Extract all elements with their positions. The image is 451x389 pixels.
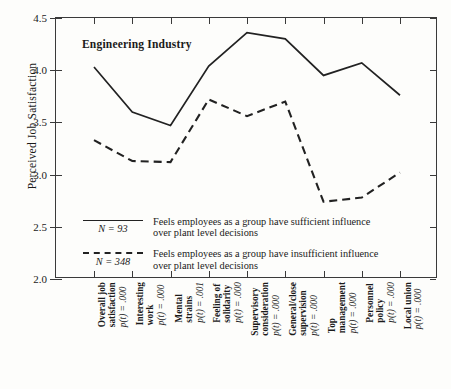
x-axis-label-name: Overall job — [97, 282, 107, 327]
x-axis-label-pvalue: p(t) = .000 — [118, 282, 128, 327]
y-tick-right — [430, 18, 436, 19]
x-axis-label-name: strains — [184, 282, 194, 323]
x-axis-label: Interestingworkp(t) = .000 — [135, 239, 166, 282]
x-tick-top — [209, 18, 210, 24]
figure-root: Perceived Job Satisfaction Engineering I… — [0, 0, 451, 389]
y-tick-right — [430, 70, 436, 71]
x-axis-label-name: management — [337, 282, 347, 333]
x-tick-top — [171, 18, 172, 24]
x-axis-label: Local unionp(t) = .000 — [403, 235, 424, 282]
x-tick — [132, 271, 133, 277]
x-axis-label-pvalue: p(t) = .000 — [413, 282, 423, 329]
x-axis-label-name: Top — [327, 282, 337, 333]
x-tick-top — [285, 18, 286, 24]
x-axis-label-name: consideration — [260, 282, 270, 336]
legend-label-line1: Feels employees as a group have sufficie… — [153, 216, 370, 228]
legend-key: N = 93 — [80, 216, 146, 235]
y-tick-inner — [56, 70, 62, 71]
y-tick-inner — [56, 279, 62, 280]
x-axis-label: Mentalstrainsp(t) = .001 — [174, 241, 205, 282]
y-tick-right — [430, 279, 436, 280]
x-tick — [362, 271, 363, 277]
x-axis-label-pvalue: p(t) = .000 — [271, 282, 281, 336]
y-tick-label: 4.0 — [33, 64, 47, 76]
x-tick-top — [400, 18, 401, 24]
x-axis-label: Feeling ofsolidarityp(t) = .000 — [212, 241, 243, 282]
x-axis-labels: Overall jobsatisfactionp(t) = .000Intere… — [55, 282, 437, 389]
x-tick-top — [247, 18, 248, 24]
x-axis-label: Supervisoryconsiderationp(t) = .000 — [250, 228, 281, 282]
x-axis-label-name: Feeling of — [212, 282, 222, 323]
x-tick-top — [362, 18, 363, 24]
x-axis-label-pvalue: p(t) = .000 — [347, 282, 357, 333]
x-tick — [94, 271, 95, 277]
y-tick-label: 3.0 — [33, 169, 47, 181]
y-tick-inner — [56, 18, 62, 19]
legend-sample-solid — [83, 220, 143, 221]
x-axis-label-name: Local union — [403, 282, 413, 329]
x-axis-label-name: Supervisory — [250, 282, 260, 336]
x-axis-label-pvalue: p(t) = .000 — [156, 282, 166, 325]
x-axis-label-name: supervision — [299, 282, 309, 336]
x-tick — [209, 271, 210, 277]
y-tick-inner — [56, 175, 62, 176]
y-tick-label: 2.0 — [33, 273, 47, 285]
y-tick-inner — [56, 227, 62, 228]
y-tick-inner — [56, 122, 62, 123]
x-axis-label-name: Interesting — [135, 282, 145, 325]
x-axis-label-name: Personnel — [365, 282, 375, 323]
x-axis-label: Topmanagementp(t) = .000 — [327, 231, 358, 282]
y-tick-label: 4.5 — [33, 12, 47, 24]
x-axis-label: Personnelpolicyp(t) = .000 — [365, 241, 396, 282]
y-tick-right — [430, 175, 436, 176]
x-axis-label-pvalue: p(t) = .001 — [194, 282, 204, 323]
series-line-sufficient — [94, 33, 400, 126]
x-axis-label: Overall jobsatisfactionp(t) = .000 — [97, 237, 128, 282]
x-axis-label-name: Mental — [174, 282, 184, 323]
x-tick-top — [94, 18, 95, 24]
x-axis-label-name: policy — [375, 282, 385, 323]
legend-sample-size: N = 93 — [98, 223, 127, 235]
x-tick — [400, 271, 401, 277]
x-tick — [171, 271, 172, 277]
x-tick-top — [324, 18, 325, 24]
y-tick-right — [430, 122, 436, 123]
x-tick — [285, 271, 286, 277]
x-axis-label: General/closesupervisionp(t) = .000 — [288, 228, 319, 282]
x-axis-label-name: solidarity — [222, 282, 232, 323]
y-tick-label: 2.5 — [33, 221, 47, 233]
y-tick-right — [430, 227, 436, 228]
x-tick — [247, 271, 248, 277]
x-tick — [324, 271, 325, 277]
x-axis-label-name: satisfaction — [107, 282, 117, 327]
y-tick-label: 3.5 — [33, 116, 47, 128]
x-axis-label-name: General/close — [288, 282, 298, 336]
x-axis-label-pvalue: p(t) = .000 — [309, 282, 319, 336]
x-axis-label-name: work — [146, 282, 156, 325]
x-axis-label-pvalue: p(t) = .000 — [233, 282, 243, 323]
x-tick-top — [132, 18, 133, 24]
x-axis-label-pvalue: p(t) = .000 — [386, 282, 396, 323]
